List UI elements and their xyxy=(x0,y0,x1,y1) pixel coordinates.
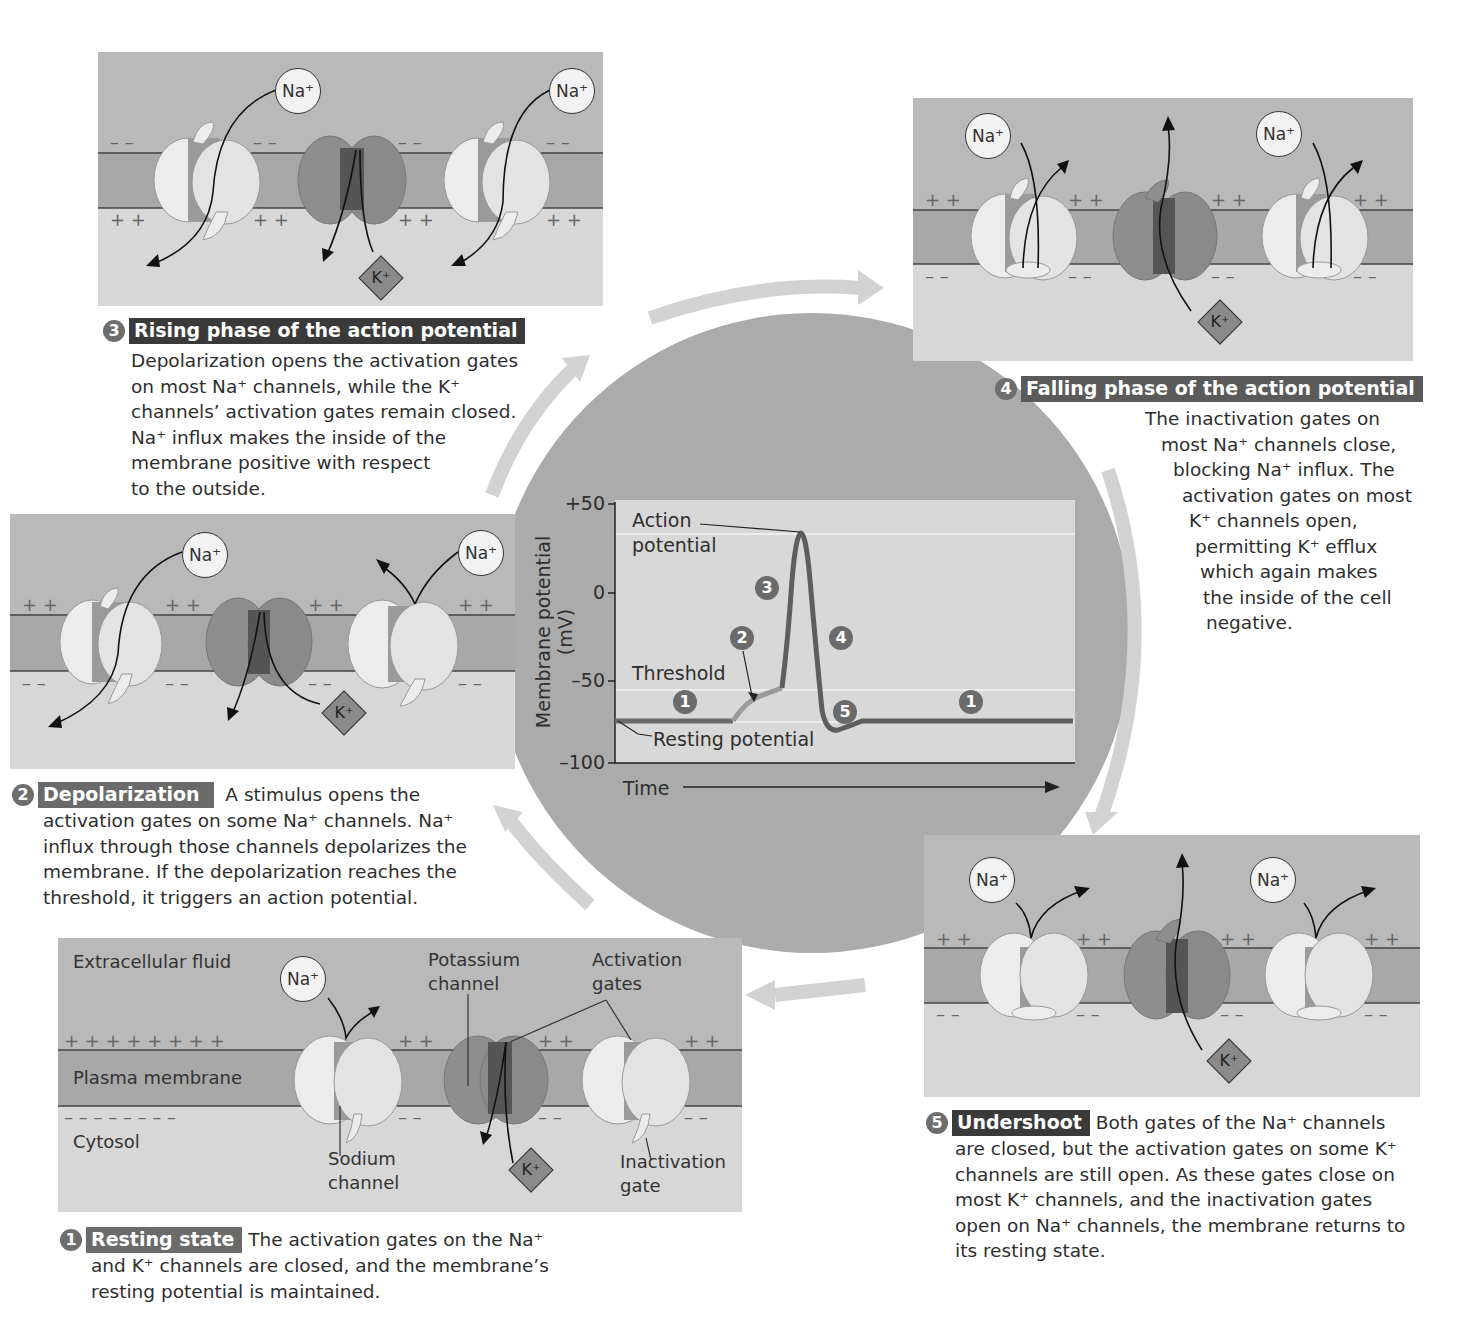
svg-text:– –: – – xyxy=(308,672,332,693)
svg-text:+ +: + + xyxy=(398,209,434,230)
marker-1-left: 1 xyxy=(673,690,697,714)
marker-1-right: 1 xyxy=(959,690,983,714)
sodium-ion-left: Na⁺ xyxy=(965,113,1011,159)
action-potential-chart: +50 0 –50 –100 Membrane potential (mV) A… xyxy=(520,490,1090,810)
step-1-badge: 1 xyxy=(60,1229,82,1251)
step-4-badge: 4 xyxy=(995,378,1017,400)
svg-text:+ +: + + xyxy=(458,594,494,615)
svg-text:+ +: + + xyxy=(110,209,146,230)
svg-text:+ +: + + xyxy=(538,1030,574,1051)
threshold-label: Threshold xyxy=(632,661,726,686)
svg-text:+ +: + + xyxy=(253,209,289,230)
sodium-ion-right: Na⁺ xyxy=(458,530,504,576)
rising-phase-title: Rising phase of the action potential xyxy=(129,318,525,344)
sodium-channel-closed-left xyxy=(980,933,1088,1020)
svg-text:+ +: + + xyxy=(936,928,972,949)
svg-text:+ +: + + xyxy=(1353,189,1389,210)
svg-text:+ +: + + xyxy=(1068,189,1104,210)
cycle-arrow-3-to-4 xyxy=(650,287,860,318)
step-2-badge: 2 xyxy=(12,784,34,806)
panel-rising-phase: – –– –– –– – + ++ ++ ++ + xyxy=(98,52,603,306)
marker-4: 4 xyxy=(829,626,853,650)
panel-resting-state: + + + + + + + + + ++ ++ + – – – – – – – … xyxy=(58,938,742,1212)
svg-text:– –: – – xyxy=(1068,265,1092,286)
svg-text:– –: – – xyxy=(110,131,134,152)
potassium-channel-closed-center xyxy=(206,598,312,686)
svg-text:– –: – – xyxy=(684,1106,708,1127)
potassium-channel-resting xyxy=(444,1036,548,1124)
sodium-ion-right: Na⁺ xyxy=(1250,857,1296,903)
resting-state-title: Resting state xyxy=(86,1227,242,1253)
svg-text:+ +: + + xyxy=(165,594,201,615)
sodium-ion-left: Na⁺ xyxy=(969,857,1015,903)
svg-text:+ +: + + xyxy=(684,1030,720,1051)
cycle-arrowhead-5-to-1 xyxy=(745,980,775,1010)
cycle-arrow-5-to-1 xyxy=(775,985,865,995)
step-3-badge: 3 xyxy=(103,320,125,342)
falling-phase-title: Falling phase of the action potential xyxy=(1021,376,1423,402)
panel-undershoot: + ++ ++ ++ + – –– –– –– – xyxy=(924,835,1420,1097)
cytosol-label: Cytosol xyxy=(73,1130,140,1154)
inactivation-gate-label: Inactivation gate xyxy=(620,1150,726,1198)
tick-plus50: +50 xyxy=(535,492,605,514)
svg-text:– –: – – xyxy=(458,672,482,693)
svg-text:+ +: + + xyxy=(22,594,58,615)
svg-text:– –: – – xyxy=(925,265,949,286)
depolarization-title: Depolarization xyxy=(38,782,214,808)
activation-gates-label: Activation gates xyxy=(592,948,682,996)
svg-text:– –: – – xyxy=(398,131,422,152)
potassium-channel-closed-center xyxy=(298,136,406,224)
marker-5: 5 xyxy=(833,700,857,724)
svg-text:+ + + + + + + +: + + + + + + + + xyxy=(64,1030,225,1051)
cytosol-region xyxy=(98,208,603,306)
svg-text:– –: – – xyxy=(1364,1003,1388,1024)
action-potential-label: Action potential xyxy=(632,508,717,558)
svg-text:– –: – – xyxy=(538,1106,562,1127)
caption-depolarization: 2Depolarization A stimulus opens the act… xyxy=(12,782,467,910)
sodium-ion: Na⁺ xyxy=(280,956,326,1002)
resting-potential-label: Resting potential xyxy=(653,727,814,752)
sodium-channel-closed-right xyxy=(1265,933,1373,1020)
tick-minus100: –100 xyxy=(535,751,605,773)
sodium-ion-left: Na⁺ xyxy=(182,532,228,578)
cycle-arrowhead-3-to-4 xyxy=(858,270,884,305)
svg-text:– –: – – xyxy=(546,131,570,152)
marker-2: 2 xyxy=(730,626,754,650)
svg-text:– –: – – xyxy=(936,1003,960,1024)
sodium-channel-label: Sodium channel xyxy=(328,1147,399,1195)
svg-text:+ +: + + xyxy=(546,209,582,230)
extracellular-fluid-label: Extracellular fluid xyxy=(73,950,231,974)
svg-text:+ +: + + xyxy=(1220,928,1256,949)
caption-undershoot: 5Undershoot Both gates of the Na⁺ channe… xyxy=(926,1110,1405,1264)
potassium-channel-label: Potassium channel xyxy=(428,948,520,996)
svg-text:– – – – – – – –: – – – – – – – – xyxy=(64,1106,176,1127)
svg-text:+ +: + + xyxy=(1364,928,1400,949)
panel-depolarization: + ++ ++ ++ + – –– –– –– – xyxy=(10,514,515,769)
svg-text:– –: – – xyxy=(22,672,46,693)
step-5-badge: 5 xyxy=(926,1112,948,1134)
caption-rising-phase: 3Rising phase of the action potential De… xyxy=(103,318,525,501)
time-arrowhead xyxy=(1045,781,1060,793)
marker-3: 3 xyxy=(755,576,779,600)
svg-text:+ +: + + xyxy=(1076,928,1112,949)
svg-text:– –: – – xyxy=(253,131,277,152)
plasma-membrane-label: Plasma membrane xyxy=(73,1066,242,1090)
cycle-arrowhead-4-to-5 xyxy=(1085,812,1118,835)
svg-text:+ +: + + xyxy=(925,189,961,210)
svg-text:+ +: + + xyxy=(1211,189,1247,210)
svg-text:– –: – – xyxy=(1076,1003,1100,1024)
extracellular-region xyxy=(98,52,603,152)
caption-resting-state: 1Resting state The activation gates on t… xyxy=(60,1227,549,1304)
sodium-ion-left: Na⁺ xyxy=(275,68,321,114)
svg-text:– –: – – xyxy=(1211,265,1235,286)
svg-text:– –: – – xyxy=(165,672,189,693)
undershoot-title: Undershoot xyxy=(952,1110,1090,1136)
sodium-ion-right: Na⁺ xyxy=(1256,111,1302,157)
svg-text:+ +: + + xyxy=(398,1030,434,1051)
sodium-ion-right: Na⁺ xyxy=(549,68,595,114)
svg-text:– –: – – xyxy=(1220,1003,1244,1024)
svg-text:– –: – – xyxy=(398,1106,422,1127)
panel-falling-phase: + ++ ++ ++ + – –– –– –– – xyxy=(913,98,1413,361)
svg-text:+ +: + + xyxy=(308,594,344,615)
y-axis-label: Membrane potential (mV) xyxy=(532,532,576,732)
